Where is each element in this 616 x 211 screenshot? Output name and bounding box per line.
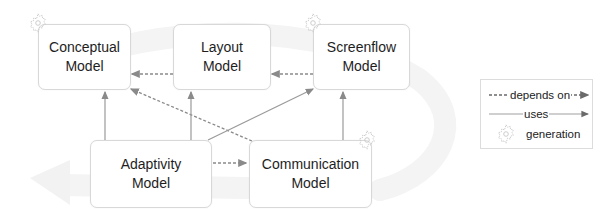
legend-label-generation: generation [525, 125, 581, 143]
gear-icon [27, 12, 49, 34]
edge-adaptivity-to-screenflow [208, 89, 313, 140]
diagram-canvas: Conceptual Model Layout Model Screenflow… [0, 0, 616, 211]
node-label-line2: Model [132, 174, 170, 193]
legend: depends on uses generation [480, 79, 593, 149]
node-label-line1: Communication [262, 155, 359, 174]
gear-icon [356, 129, 378, 151]
node-layout-model: Layout Model [173, 24, 271, 90]
node-label-line2: Model [291, 174, 329, 193]
gear-icon [302, 12, 324, 34]
gear-icon [495, 123, 517, 145]
node-label-line1: Screenflow [327, 38, 396, 57]
legend-row-generation: generation [481, 125, 592, 143]
node-adaptivity-model: Adaptivity Model [90, 140, 212, 208]
node-communication-model: Communication Model [249, 140, 372, 208]
node-label-line1: Conceptual [49, 38, 120, 57]
node-label-line2: Model [342, 57, 380, 76]
node-label-line2: Model [65, 57, 103, 76]
node-screenflow-model: Screenflow Model [313, 24, 410, 90]
legend-label-depends-on: depends on [509, 86, 571, 104]
node-label-line2: Model [203, 57, 241, 76]
legend-row-depends-on: depends on [481, 86, 592, 104]
node-label-line1: Adaptivity [121, 155, 182, 174]
legend-label-uses: uses [523, 105, 549, 123]
node-conceptual-model: Conceptual Model [38, 24, 131, 90]
node-label-line1: Layout [201, 38, 243, 57]
legend-row-uses: uses [481, 105, 592, 123]
